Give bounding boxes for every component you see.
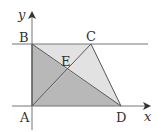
point-label-a: A bbox=[19, 110, 30, 125]
geometry-diagram: y x B C E A D bbox=[0, 0, 161, 132]
point-label-c: C bbox=[86, 29, 96, 44]
point-label-d: D bbox=[116, 110, 126, 125]
point-label-b: B bbox=[19, 30, 29, 45]
x-axis-label: x bbox=[144, 109, 152, 124]
point-label-e: E bbox=[61, 54, 71, 69]
y-axis-label: y bbox=[17, 7, 26, 22]
